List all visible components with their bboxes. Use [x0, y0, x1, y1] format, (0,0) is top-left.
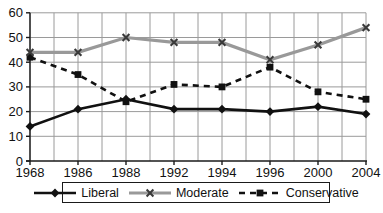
x-axis-tick-labels: 19681986198819921994199620002004	[16, 165, 381, 180]
svg-text:2000: 2000	[304, 165, 333, 180]
conservative-line-sample-icon	[238, 187, 282, 199]
svg-text:1988: 1988	[112, 165, 141, 180]
svg-text:50: 50	[9, 30, 23, 45]
svg-text:40: 40	[9, 55, 23, 70]
svg-text:60: 60	[9, 5, 23, 20]
liberal-line-sample-icon	[33, 187, 77, 199]
legend-label-liberal: Liberal	[81, 186, 119, 200]
chart-legend: Liberal Moderate Conservative	[62, 182, 330, 203]
legend-item-moderate: Moderate	[128, 186, 229, 200]
svg-text:1986: 1986	[64, 165, 93, 180]
svg-text:30: 30	[9, 79, 23, 94]
chart-plot-area: 0102030405060196819861988199219941996200…	[0, 0, 383, 181]
y-axis-tick-labels: 0102030405060	[9, 5, 23, 168]
svg-text:10: 10	[9, 129, 23, 144]
legend-label-moderate: Moderate	[176, 186, 229, 200]
legend-item-conservative: Conservative	[238, 186, 359, 200]
moderate-line-sample-icon	[128, 187, 172, 199]
ideology-line-chart-figure: 0102030405060196819861988199219941996200…	[0, 0, 383, 213]
legend-item-liberal: Liberal	[33, 186, 119, 200]
legend-label-conservative: Conservative	[286, 186, 359, 200]
svg-text:1992: 1992	[160, 165, 189, 180]
svg-text:2004: 2004	[352, 165, 381, 180]
svg-text:1996: 1996	[256, 165, 285, 180]
svg-text:20: 20	[9, 104, 23, 119]
svg-text:1994: 1994	[208, 165, 237, 180]
svg-text:1968: 1968	[16, 165, 45, 180]
